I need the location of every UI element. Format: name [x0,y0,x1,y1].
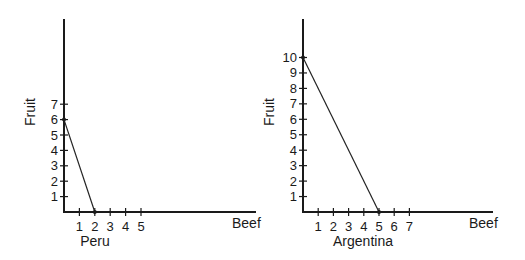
y-tick-label: 1 [51,189,58,204]
y-axis-label: Fruit [261,98,277,126]
x-tick-label: 7 [406,219,413,234]
x-tick-label: 2 [330,219,337,234]
y-tick-label: 3 [51,158,58,173]
y-intercept-point [301,56,305,60]
chart-canvas: 1234567 12345 Fruit Beef Peru 1234567891… [0,0,525,260]
y-ticks: 1234567 [51,97,68,204]
y-intercept-point [62,118,66,122]
x-tick-label: 3 [345,219,352,234]
y-tick-label: 6 [290,112,297,127]
y-tick-label: 9 [290,65,297,80]
x-tick-label: 2 [91,219,98,234]
x-tick-label: 4 [360,219,367,234]
y-tick-label: 4 [290,143,297,158]
peru-ppf-chart: 1234567 12345 Fruit Beef Peru [22,19,261,249]
y-tick-label: 2 [51,174,58,189]
argentina-ppf-chart: 12345678910 1234567 Fruit Beef Argentina [261,19,498,249]
y-tick-label: 5 [290,127,297,142]
y-tick-label: 8 [290,81,297,96]
x-tick-label: 3 [107,219,114,234]
y-tick-label: 7 [290,96,297,111]
chart-caption: Peru [80,233,110,249]
y-axis-label: Fruit [22,98,38,126]
x-tick-label: 5 [375,219,382,234]
y-tick-label: 5 [51,128,58,143]
x-tick-label: 4 [122,219,129,234]
y-tick-label: 10 [283,50,297,65]
x-axis-label: Beef [232,215,261,231]
y-tick-label: 4 [51,143,58,158]
ppf-line [64,120,95,212]
y-tick-label: 2 [290,174,297,189]
x-tick-label: 5 [137,219,144,234]
ppf-line [303,58,379,213]
y-tick-label: 3 [290,158,297,173]
x-intercept-point [93,210,97,214]
x-tick-label: 1 [76,219,83,234]
y-tick-label: 7 [51,97,58,112]
x-intercept-point [377,210,381,214]
x-tick-label: 6 [391,219,398,234]
x-axis-label: Beef [469,215,498,231]
chart-caption: Argentina [333,233,393,249]
y-tick-label: 6 [51,112,58,127]
x-tick-label: 1 [315,219,322,234]
y-tick-label: 1 [290,189,297,204]
